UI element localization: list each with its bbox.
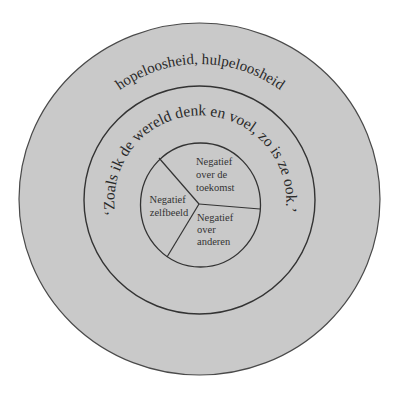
segment-negatief-toekomst: Negatief over de toekomst bbox=[196, 156, 235, 193]
outer-circle bbox=[19, 23, 380, 375]
cognitive-triad-diagram: hopeloosheid, hulpeloosheid ‘Zoals ik de… bbox=[0, 0, 399, 394]
